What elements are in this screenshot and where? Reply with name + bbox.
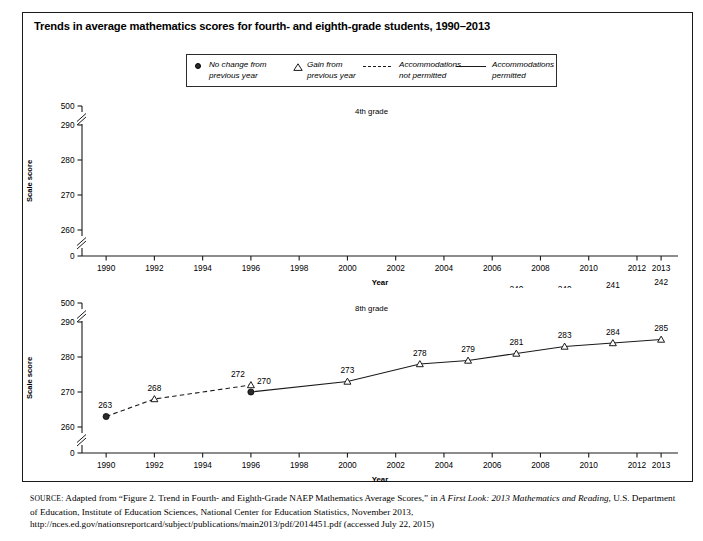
y-tick-label: 280 — [61, 155, 75, 165]
x-tick-label: 2010 — [579, 460, 598, 470]
x-tick-label: 1990 — [97, 460, 116, 470]
chart-panel-8th-grade: 5002902802702600Scale score1990199219941… — [0, 285, 671, 483]
x-tick-label: 1994 — [193, 460, 212, 470]
source-publication-title: A First Look: 2013 Mathematics and Readi… — [440, 493, 611, 503]
x-tick-label: 1992 — [145, 460, 164, 470]
marker-filled-circle-icon — [103, 413, 109, 419]
source-note: SOURCE: Adapted from “Figure 2. Trend in… — [30, 492, 680, 531]
y-tick-label: 0 — [70, 448, 75, 458]
x-tick-label: 1990 — [97, 263, 116, 273]
panel-title: 4th grade — [355, 107, 388, 116]
y-tick-label: 500 — [61, 101, 75, 111]
source-text-part1: Adapted from “Figure 2. Trend in Fourth-… — [63, 493, 439, 503]
x-axis-title: Year — [372, 475, 388, 483]
marker-filled-circle-icon — [248, 389, 254, 395]
x-tick-label: 2012 — [628, 460, 647, 470]
legend-label-line2: previous year — [307, 70, 356, 81]
chart-panel-4th-grade: 5002902802702600Scale score1990199219941… — [0, 88, 671, 288]
x-tick-label: 2004 — [435, 460, 454, 470]
x-tick-label: 2008 — [531, 460, 550, 470]
x-tick-label: 2002 — [386, 263, 405, 273]
y-axis-title: Scale score — [25, 160, 34, 202]
data-point-label: 285 — [654, 323, 668, 333]
plot-area-4th-grade: 5002902802702600Scale score1990199219941… — [0, 88, 703, 288]
data-point: 281 — [509, 337, 523, 356]
y-axis-title: Scale score — [25, 357, 34, 399]
y-tick-label: 290 — [61, 317, 75, 327]
figure-root: Trends in average mathematics scores for… — [0, 0, 703, 541]
legend-label-line2: previous year — [209, 70, 267, 81]
legend-filled-circle-icon — [195, 63, 201, 69]
x-tick-label: 2012 — [628, 263, 647, 273]
data-point-label: 284 — [606, 327, 620, 337]
data-point-label: 273 — [341, 365, 355, 375]
x-tick-label: 2013 — [652, 263, 671, 273]
page-title: Trends in average mathematics scores for… — [34, 20, 490, 32]
legend-label-line1: Accommodations — [399, 59, 461, 70]
series-line-not-permitted — [106, 385, 251, 417]
legend-label-line1: Accommodations — [492, 59, 554, 70]
y-tick-label: 270 — [61, 387, 75, 397]
x-tick-label: 2010 — [579, 263, 598, 273]
y-tick-label: 0 — [70, 251, 75, 261]
x-tick-label: 2000 — [338, 460, 357, 470]
y-tick-label: 290 — [61, 120, 75, 130]
source-prefix: SOURCE: — [30, 494, 63, 503]
x-tick-label: 2013 — [652, 460, 671, 470]
legend-item-gain: Gain from previous year — [307, 59, 356, 82]
data-point-label: 268 — [147, 383, 161, 393]
legend-triangle-icon — [293, 63, 303, 71]
panel-title: 8th grade — [355, 304, 388, 313]
data-point: 273 — [341, 365, 355, 384]
marker-open-triangle-icon — [247, 382, 254, 388]
x-tick-label: 2006 — [483, 460, 502, 470]
y-tick-label: 260 — [61, 225, 75, 235]
y-tick-label: 270 — [61, 190, 75, 200]
legend-label-line2: permitted — [492, 70, 554, 81]
y-tick-label: 260 — [61, 422, 75, 432]
legend-label-line1: Gain from — [307, 59, 356, 70]
data-point: 272 — [231, 369, 254, 388]
data-point-label: 278 — [413, 348, 427, 358]
legend-item-accommodations-not-permitted: Accommodations not permitted — [399, 59, 461, 82]
x-tick-label: 1996 — [242, 460, 261, 470]
plot-area-8th-grade: 5002902802702600Scale score1990199219941… — [0, 285, 703, 483]
legend-label-line2: not permitted — [399, 70, 461, 81]
legend-item-accommodations-permitted: Accommodations permitted — [492, 59, 554, 82]
legend-dashed-line-icon — [363, 66, 391, 67]
data-point-label: 263 — [98, 400, 112, 410]
x-tick-label: 1998 — [290, 460, 309, 470]
x-tick-label: 2008 — [531, 263, 550, 273]
data-point-label: 270 — [257, 376, 271, 386]
chart-legend: No change from previous year Gain from p… — [186, 54, 557, 87]
x-tick-label: 2002 — [386, 460, 405, 470]
x-tick-label: 1994 — [193, 263, 212, 273]
marker-open-triangle-icon — [151, 396, 158, 402]
data-point: 263 — [98, 400, 112, 420]
legend-item-no-change: No change from previous year — [209, 59, 267, 82]
y-tick-label: 500 — [61, 298, 75, 308]
data-point-label: 279 — [461, 344, 475, 354]
legend-label-line1: No change from — [209, 59, 267, 70]
x-tick-label: 2000 — [338, 263, 357, 273]
series-line-permitted — [251, 340, 661, 393]
data-point-label: 283 — [558, 330, 572, 340]
data-point: 268 — [147, 383, 161, 402]
x-tick-label: 1992 — [145, 263, 164, 273]
x-tick-label: 2004 — [435, 263, 454, 273]
x-tick-label: 2006 — [483, 263, 502, 273]
y-tick-label: 280 — [61, 352, 75, 362]
x-tick-label: 1996 — [242, 263, 261, 273]
data-point-label: 281 — [509, 337, 523, 347]
data-point-label: 272 — [231, 369, 245, 379]
x-tick-label: 1998 — [290, 263, 309, 273]
